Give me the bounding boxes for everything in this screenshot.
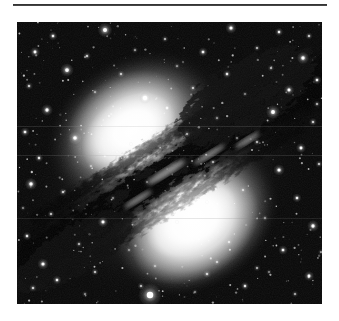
page-sheet [0,0,339,321]
top-horizontal-rule [13,4,327,6]
astronomy-photograph [17,22,322,304]
galaxy-image-svg [17,22,322,304]
film-grain [17,22,322,304]
